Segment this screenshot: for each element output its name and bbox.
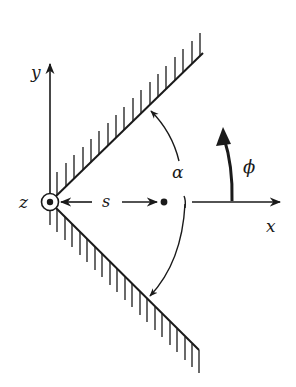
z-axis-out-of-page-icon (42, 194, 59, 211)
y-axis-label: y (30, 62, 41, 82)
point-charge-dot (161, 199, 168, 206)
x-axis-label: x (266, 216, 276, 236)
wedge-diagram: y (0, 0, 296, 387)
alpha-angle-label: α (172, 162, 184, 182)
phi-direction-arrow-icon (216, 127, 232, 201)
lower-wall (50, 204, 199, 373)
alpha-arc (150, 111, 185, 296)
distance-s-label: s (102, 192, 110, 211)
z-axis-label: z (18, 192, 29, 212)
phi-angle-label: ϕ (243, 156, 255, 177)
